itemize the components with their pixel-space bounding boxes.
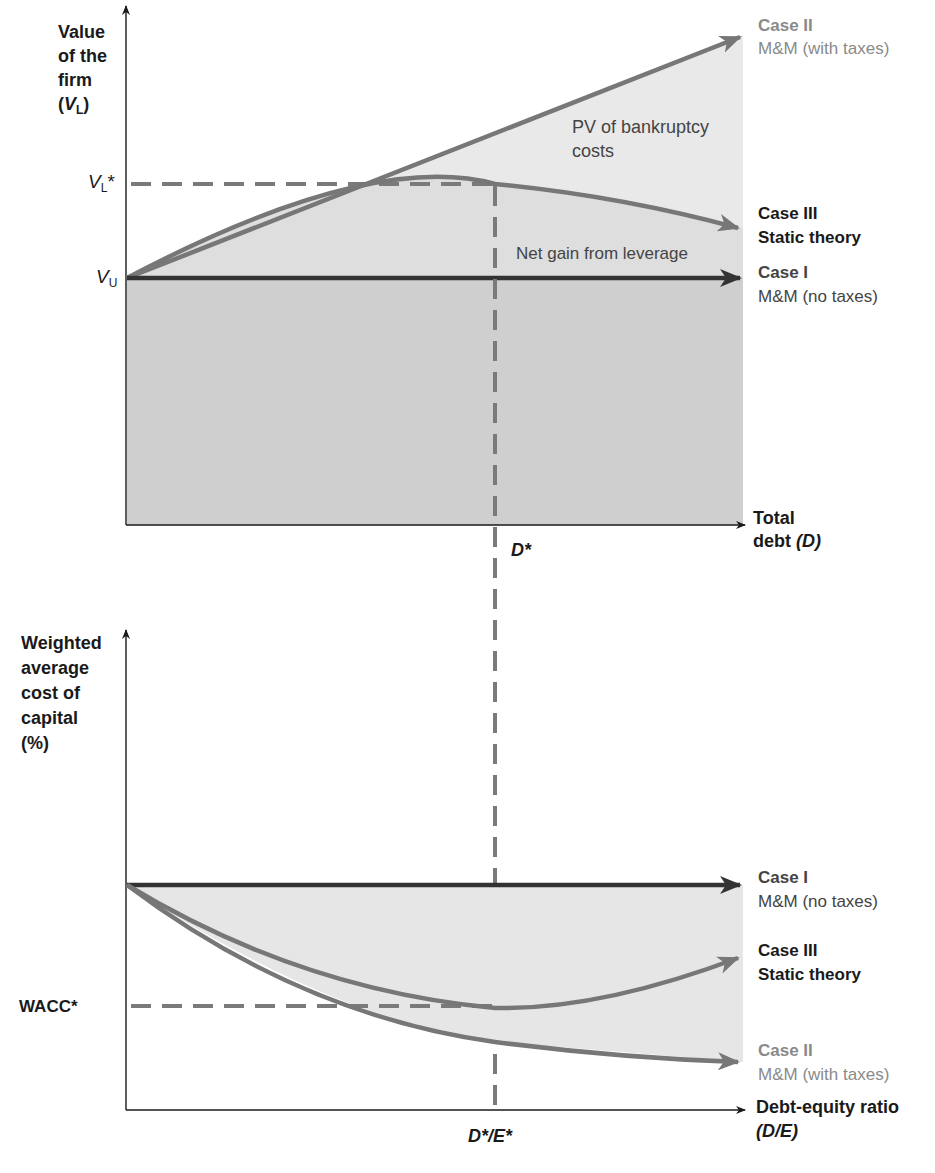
de-star-label: D*/E* bbox=[468, 1126, 512, 1147]
wacc-star-label: WACC* bbox=[19, 996, 78, 1017]
shade-firm-value-base bbox=[127, 278, 743, 525]
case3-subtitle-upper: Static theory bbox=[758, 227, 861, 248]
case1-title-lower: Case I bbox=[758, 867, 808, 888]
x-axis-label-debt-equity: Debt-equity ratio (D/E) bbox=[756, 1095, 899, 1143]
case2-subtitle-lower: M&M (with taxes) bbox=[758, 1064, 889, 1085]
pv-bankruptcy-costs-annotation: PV of bankruptcy costs bbox=[572, 115, 709, 163]
case2-title-lower: Case II bbox=[758, 1040, 813, 1061]
d-star-label: D* bbox=[511, 540, 531, 561]
case3-subtitle-lower: Static theory bbox=[758, 964, 861, 985]
case1-title-upper: Case I bbox=[758, 262, 808, 283]
case3-title-upper: Case III bbox=[758, 203, 818, 224]
net-gain-annotation: Net gain from leverage bbox=[516, 243, 688, 264]
upper-chart bbox=[126, 6, 745, 525]
case2-subtitle-upper: M&M (with taxes) bbox=[758, 38, 889, 59]
y-axis-symbol-vl: (VL) bbox=[58, 92, 107, 122]
case2-title-upper: Case II bbox=[758, 15, 813, 36]
case1-subtitle-lower: M&M (no taxes) bbox=[758, 891, 878, 912]
vl-star-label: VL* bbox=[88, 171, 115, 199]
static-theory-figure bbox=[0, 0, 935, 1173]
case1-subtitle-upper: M&M (no taxes) bbox=[758, 286, 878, 307]
x-axis-label-total-debt: Total debt (D) bbox=[753, 507, 821, 553]
y-axis-label-wacc: Weighted average cost of capital (%) bbox=[21, 631, 102, 756]
y-axis-label-firm-value: Value of the firm (VL) bbox=[58, 20, 107, 122]
lower-chart bbox=[126, 630, 745, 1110]
shade-wacc-region bbox=[127, 885, 743, 1062]
vu-label: VU bbox=[96, 266, 117, 294]
case3-title-lower: Case III bbox=[758, 940, 818, 961]
